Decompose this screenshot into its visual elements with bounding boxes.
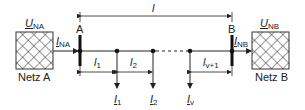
segment-label-1: l1 — [94, 57, 101, 71]
dimension-total-length — [80, 12, 232, 22]
total-length-label: l — [152, 3, 154, 14]
voltage-label-na: UNA — [25, 18, 44, 32]
segment-label-2: l2 — [130, 57, 137, 71]
current-label-na: INA — [56, 36, 70, 50]
voltage-label-nb: UNB — [260, 18, 279, 32]
load-label-1: I1 — [114, 94, 122, 108]
current-label-nb: INB — [234, 36, 248, 50]
bus-b-label: B — [228, 24, 235, 35]
load-label-v: Iv — [187, 94, 194, 108]
netz-a-label: Netz A — [18, 72, 50, 83]
segment-label-v1: lv+1 — [203, 57, 219, 71]
load-label-2: I2 — [150, 94, 158, 108]
netz-b-box — [252, 32, 289, 69]
netz-b-label: Netz B — [255, 72, 288, 83]
node-a — [78, 49, 83, 54]
bus-a-label: A — [76, 24, 83, 35]
netz-a-box — [16, 32, 53, 69]
